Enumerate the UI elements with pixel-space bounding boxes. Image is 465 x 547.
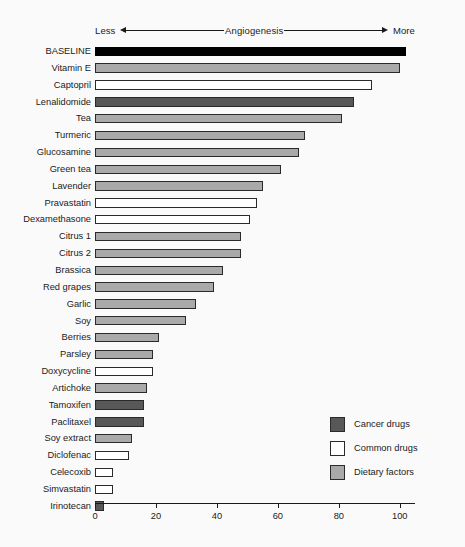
arrow-right-icon [382, 27, 388, 33]
x-tick-label: 0 [92, 511, 97, 521]
x-tick-label: 20 [151, 511, 161, 521]
bar [95, 63, 400, 72]
direction-arrow-group: Angiogenesis [120, 24, 387, 36]
bar-row: Pravastatin [0, 195, 465, 212]
bar-label: Garlic [67, 296, 91, 313]
bar [95, 333, 159, 342]
legend-label: Cancer drugs [354, 419, 410, 429]
bar-track [95, 451, 129, 460]
bar [95, 131, 305, 140]
bar-label: Citrus 1 [59, 228, 91, 245]
bar-label: Soy extract [44, 430, 91, 447]
bar-track [95, 266, 223, 275]
bar-row: Parsley [0, 346, 465, 363]
bar-track [95, 47, 406, 56]
bar-label: Red grapes [43, 279, 91, 296]
bar-label: Celecoxib [50, 464, 91, 481]
bar-track [95, 198, 257, 207]
bar-label: Pravastatin [44, 195, 91, 212]
legend-item-common[interactable]: Common drugs [330, 436, 460, 460]
bar-track [95, 148, 299, 157]
bar-label: Tamoxifen [49, 397, 91, 414]
bar [95, 485, 113, 494]
bar-track [95, 181, 263, 190]
bar-track [95, 249, 241, 258]
direction-line-right [284, 30, 382, 31]
x-tick [278, 503, 279, 508]
bar-row: Turmeric [0, 127, 465, 144]
bar-track [95, 232, 241, 241]
x-tick [217, 503, 218, 508]
bar-row: Garlic [0, 296, 465, 313]
bar [95, 114, 342, 123]
legend-item-dietary[interactable]: Dietary factors [330, 460, 460, 484]
bar-track [95, 333, 159, 342]
bar-label: Vitamin E [51, 60, 91, 77]
bar-row: Citrus 1 [0, 228, 465, 245]
bar-label: Irinotecan [50, 498, 91, 515]
bar-label: Diclofenac [48, 447, 91, 464]
bar-track [95, 400, 144, 409]
bar-row: Soy [0, 313, 465, 330]
bar-label: BASELINE [46, 43, 91, 60]
direction-center-label: Angiogenesis [224, 25, 284, 36]
bar [95, 383, 147, 392]
bar [95, 97, 354, 106]
x-tick-label: 80 [334, 511, 344, 521]
bar-track [95, 383, 147, 392]
bar-row: Glucosamine [0, 144, 465, 161]
bar-track [95, 367, 153, 376]
bar-track [95, 80, 372, 89]
bar-row: Doxycycline [0, 363, 465, 380]
bar-row: Captopril [0, 77, 465, 94]
bar-track [95, 215, 250, 224]
chart-legend: Cancer drugsCommon drugsDietary factors [330, 412, 460, 484]
direction-line-left [126, 30, 224, 31]
bar-track [95, 165, 281, 174]
legend-item-cancer[interactable]: Cancer drugs [330, 412, 460, 436]
bar-label: Brassica [55, 262, 91, 279]
bar-row: Lavender [0, 178, 465, 195]
bar [95, 148, 299, 157]
bar-row: Dexamethasone [0, 211, 465, 228]
bar-track [95, 350, 153, 359]
bar [95, 80, 372, 89]
bar-row: Tea [0, 110, 465, 127]
bar [95, 299, 196, 308]
bar-label: Turmeric [55, 127, 91, 144]
bar-row: Vitamin E [0, 60, 465, 77]
bar-label: Green tea [50, 161, 91, 178]
bar [95, 249, 241, 258]
bar [95, 266, 223, 275]
bar [95, 468, 113, 477]
bar-label: Berries [62, 329, 91, 346]
direction-less-label: Less [95, 25, 115, 36]
bar-track [95, 63, 400, 72]
x-tick-label: 100 [392, 511, 408, 521]
bar [95, 215, 250, 224]
bar-track [95, 114, 342, 123]
bar-row: Red grapes [0, 279, 465, 296]
direction-header: Less Angiogenesis More [95, 20, 415, 40]
bar [95, 282, 214, 291]
bar-label: Glucosamine [37, 144, 91, 161]
bar-track [95, 485, 113, 494]
bar-track [95, 434, 132, 443]
bar [95, 367, 153, 376]
bar [95, 198, 257, 207]
bar-label: Lavender [52, 178, 91, 195]
bar-row: Citrus 2 [0, 245, 465, 262]
x-axis: 020406080100 [95, 503, 415, 543]
bar-row: BASELINE [0, 43, 465, 60]
bar-row: Artichoke [0, 380, 465, 397]
bar-row: Green tea [0, 161, 465, 178]
bar-label: Lenalidomide [36, 94, 91, 111]
bar-label: Artichoke [52, 380, 91, 397]
bar-row: Brassica [0, 262, 465, 279]
bar [95, 451, 129, 460]
x-tick [156, 503, 157, 508]
bar-label: Captopril [54, 77, 91, 94]
x-tick [400, 503, 401, 508]
bar [95, 350, 153, 359]
legend-label: Common drugs [354, 443, 418, 453]
